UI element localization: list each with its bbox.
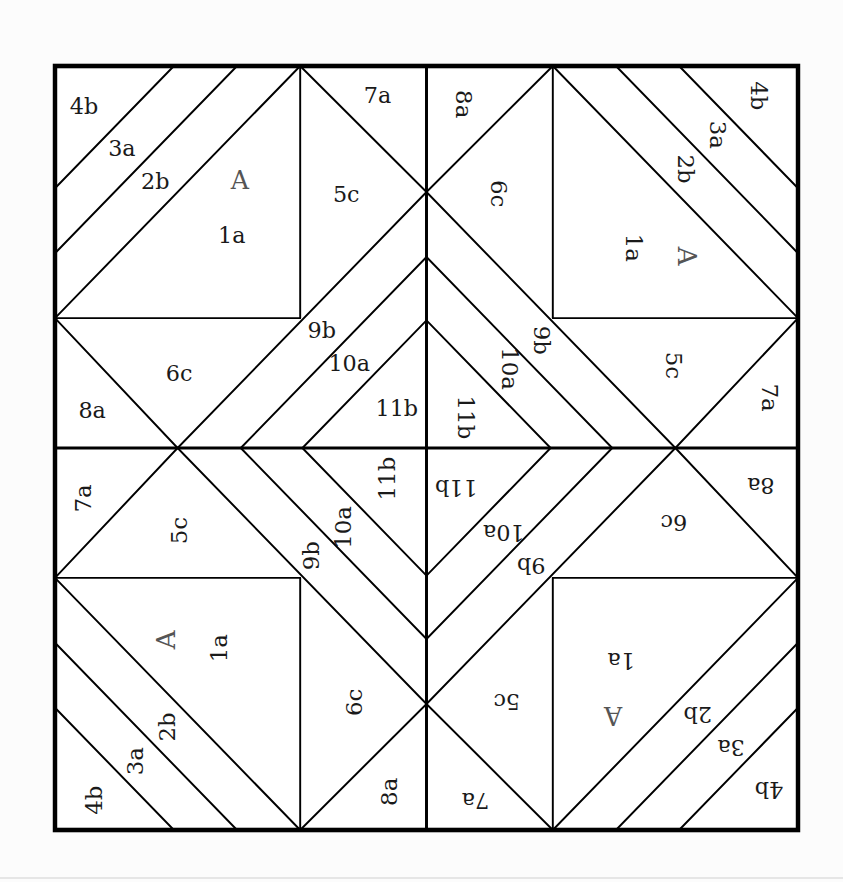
- section-label-A: A: [151, 630, 181, 650]
- piece-label-5c: 5c: [493, 689, 520, 715]
- piece-label-10a: 10a: [483, 520, 525, 546]
- piece-label-3a: 3a: [717, 735, 744, 761]
- block-group: 1a2b3a4b5c6c7a8a9b10a11bA 1a2b3a4b5c6c7a…: [55, 66, 798, 830]
- piece-label-10a: 10a: [331, 506, 357, 549]
- piece-label-8a: 8a: [377, 778, 403, 806]
- piece-label-8a: 8a: [451, 90, 477, 118]
- piece-label-3a: 3a: [122, 747, 148, 775]
- piece-label-6c: 6c: [486, 180, 512, 207]
- piece-label-11b: 11b: [453, 396, 479, 440]
- piece-label-6c: 6c: [661, 509, 688, 535]
- piece-label-6c: 6c: [341, 689, 367, 716]
- piece-label-9b: 9b: [517, 553, 545, 579]
- quilt-block: 1a2b3a4b5c6c7a8a9b10a11bA 1a2b3a4b5c6c7a…: [0, 0, 843, 882]
- quilt-diagram-stage: 1a2b3a4b5c6c7a8a9b10a11bA 1a2b3a4b5c6c7a…: [0, 0, 843, 882]
- piece-label-4b: 4b: [755, 777, 783, 803]
- piece-label-11b: 11b: [375, 457, 401, 501]
- piece-label-10a: 10a: [497, 347, 523, 390]
- section-label-A: A: [672, 246, 702, 266]
- piece-label-3a: 3a: [705, 121, 731, 149]
- piece-label-8a: 8a: [747, 473, 774, 499]
- piece-label-9b: 9b: [308, 317, 336, 343]
- piece-label-2b: 2b: [154, 712, 180, 741]
- piece-label-3a: 3a: [108, 135, 135, 161]
- piece-label-4b: 4b: [70, 93, 98, 119]
- piece-label-7a: 7a: [364, 82, 391, 108]
- piece-label-1a: 1a: [607, 648, 634, 674]
- section-label-A: A: [230, 165, 250, 195]
- piece-label-1a: 1a: [207, 634, 233, 662]
- piece-label-5c: 5c: [333, 181, 360, 207]
- piece-label-8a: 8a: [78, 397, 105, 423]
- piece-label-6c: 6c: [166, 360, 193, 386]
- piece-label-9b: 9b: [299, 541, 325, 570]
- piece-label-2b: 2b: [683, 702, 711, 728]
- piece-label-2b: 2b: [673, 155, 699, 184]
- piece-label-2b: 2b: [141, 168, 169, 194]
- piece-label-11b: 11b: [435, 475, 478, 501]
- page-bottom-rule: [0, 877, 843, 879]
- piece-label-9b: 9b: [529, 326, 555, 355]
- piece-label-11b: 11b: [375, 395, 418, 421]
- piece-label-4b: 4b: [746, 81, 772, 110]
- piece-label-10a: 10a: [328, 350, 370, 376]
- piece-label-7a: 7a: [462, 788, 489, 814]
- piece-label-4b: 4b: [81, 786, 107, 815]
- piece-label-5c: 5c: [661, 352, 687, 379]
- piece-label-1a: 1a: [218, 222, 245, 248]
- piece-label-7a: 7a: [757, 383, 783, 411]
- piece-label-1a: 1a: [621, 234, 647, 262]
- section-label-A: A: [603, 701, 623, 731]
- piece-label-5c: 5c: [167, 517, 193, 544]
- piece-label-7a: 7a: [71, 484, 97, 512]
